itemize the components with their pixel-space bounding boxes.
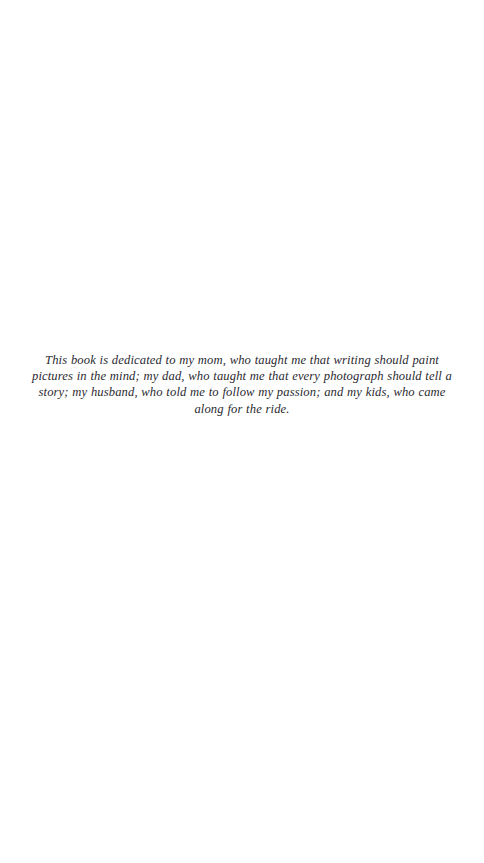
dedication-block: This book is dedicated to my mom, who ta…: [26, 352, 458, 417]
dedication-text: This book is dedicated to my mom, who ta…: [26, 352, 458, 417]
dedication-page: This book is dedicated to my mom, who ta…: [0, 0, 484, 863]
